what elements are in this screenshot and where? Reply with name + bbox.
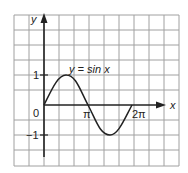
origin-label: 0 (33, 107, 39, 119)
x-tick-label-2pi: 2π (132, 108, 146, 120)
curve-label: y = sin x (68, 63, 110, 75)
x-tick-label-pi: π (83, 108, 91, 120)
y-tick-label-neg1: −1 (26, 129, 39, 141)
x-axis-label: x (169, 99, 176, 111)
sine-graph: y x 0 1 −1 π 2π y = sin x (0, 0, 188, 173)
y-tick-label-1: 1 (33, 69, 39, 81)
x-axis (44, 102, 166, 109)
grid (14, 15, 179, 166)
